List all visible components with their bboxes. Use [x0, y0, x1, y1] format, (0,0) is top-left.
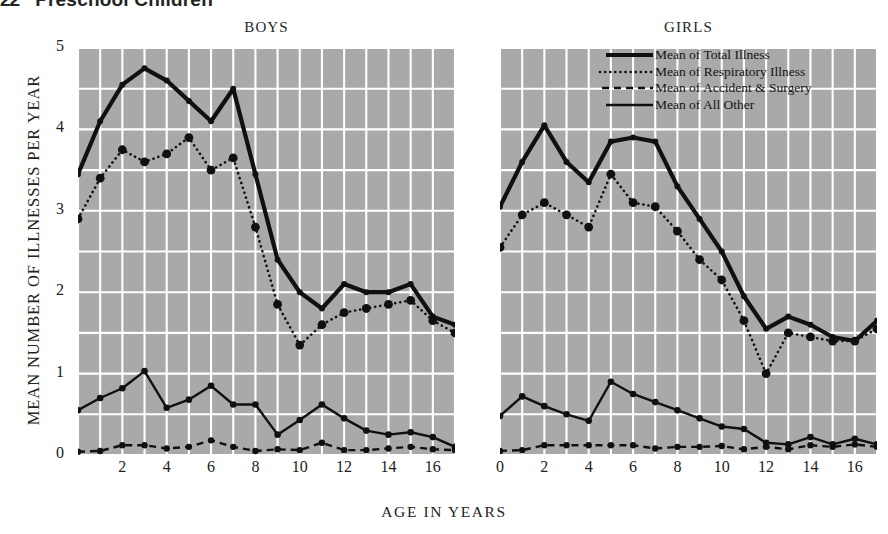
panel-title-boys: BOYS: [78, 19, 455, 36]
running-head-title: Preschool Children: [35, 0, 213, 9]
solid-thick-line-icon: [592, 49, 654, 61]
x-tick-label: 6: [629, 458, 637, 476]
x-tick-label: 2: [118, 458, 126, 476]
y-tick-label: 3: [24, 200, 64, 218]
x-tick-label: 8: [673, 458, 681, 476]
dotted-line-icon: [592, 66, 654, 78]
x-tick-label: 12: [336, 458, 352, 476]
series-solid-thin: [500, 378, 877, 447]
legend-item: Mean of Accident & Surgery: [592, 80, 888, 97]
x-tick-label: 4: [163, 458, 171, 476]
legend-item: Mean of All Other: [592, 97, 888, 114]
series-solid-thick: [500, 122, 877, 344]
x-tick-label: 4: [585, 458, 593, 476]
legend-item-label: Mean of Total Illness: [654, 47, 770, 63]
y-tick-label: 2: [24, 281, 64, 299]
x-axis-title: AGE IN YEARS: [0, 503, 888, 521]
x-tick-label: 16: [425, 458, 441, 476]
solid-thin-line-icon: [592, 99, 654, 111]
dashed-line-icon: [592, 82, 654, 94]
grid-lines: [78, 48, 455, 455]
series-dashed: [78, 437, 455, 455]
x-tick-label: 14: [802, 458, 818, 476]
legend-item-label: Mean of All Other: [654, 97, 754, 113]
x-tick-label: 10: [292, 458, 308, 476]
x-tick-label: 6: [207, 458, 215, 476]
x-tick-label: 14: [380, 458, 396, 476]
x-tick-label: 12: [758, 458, 774, 476]
x-tick-label: 8: [251, 458, 259, 476]
figure-root: 22 Preschool Children BOYS GIRLS MEAN NU…: [0, 0, 888, 534]
panel-title-girls: GIRLS: [500, 19, 877, 36]
x-tick-label: 2: [540, 458, 548, 476]
plot-area-boys: [78, 48, 455, 455]
series-dotted: [78, 133, 455, 349]
x-tick-label: 16: [847, 458, 863, 476]
x-axis-ticks-girls: 0246810121416: [500, 458, 877, 482]
series-dashed: [500, 441, 877, 454]
legend-item-label: Mean of Respiratory Illness: [654, 64, 805, 80]
running-head-number: 22: [0, 0, 19, 9]
y-axis-ticks: 012345: [0, 48, 72, 455]
y-tick-label: 1: [24, 363, 64, 381]
running-head: 22 Preschool Children: [0, 0, 213, 9]
x-tick-label: 10: [714, 458, 730, 476]
legend-item-label: Mean of Accident & Surgery: [654, 80, 811, 96]
chart-legend: Mean of Total IllnessMean of Respiratory…: [592, 47, 888, 113]
series-solid-thick: [78, 65, 455, 327]
series-solid-thin: [78, 368, 455, 450]
y-tick-label: 4: [24, 118, 64, 136]
y-tick-label: 0: [24, 444, 64, 462]
y-tick-label: 5: [24, 37, 64, 55]
x-tick-label: 0: [496, 458, 504, 476]
legend-item: Mean of Total Illness: [592, 47, 888, 64]
x-axis-ticks-boys: 246810121416: [78, 458, 455, 482]
legend-item: Mean of Respiratory Illness: [592, 64, 888, 81]
plot-canvas: [78, 48, 455, 455]
